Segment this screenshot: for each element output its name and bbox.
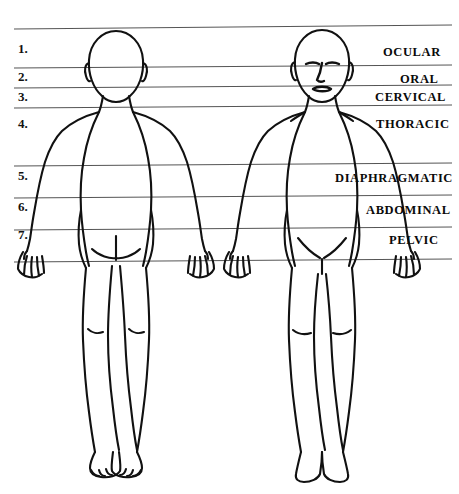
anatomy-diagram: 1. 2. 3. 4. 5. 6. 7. OCULAR ORAL CERVICA… [0,0,459,494]
posterior-leg-right-outer [137,268,149,452]
posterior-buttock-right [116,249,140,258]
posterior-torso-left [81,112,99,266]
anterior-inguinal-right [324,238,346,258]
posterior-leg-left-inner [108,266,119,450]
posterior-torso-right [133,112,151,266]
anterior-knee-right [333,330,351,334]
number-label-4: 4. [18,117,28,130]
number-label-6: 6. [18,200,28,213]
posterior-knee-right [129,329,144,333]
posterior-leg-left-outer [83,268,95,452]
anterior-foot-right [322,452,348,482]
posterior-neck-left [99,96,103,112]
anterior-leg-left-outer [289,268,301,452]
right-eye [326,63,339,65]
line-ocular [14,65,452,68]
number-label-2: 2. [18,70,28,83]
region-label-diaphragmatic: DIAPHRAGMATIC [335,172,453,185]
posterior-hand-left [18,251,44,277]
posterior-head-outline [89,31,143,102]
mouth [313,87,331,92]
number-label-3: 3. [18,90,28,103]
number-label-7: 7. [18,228,28,241]
line-oral [14,85,452,88]
anterior-shoulder-arm-left [233,112,305,251]
anterior-leg-right-outer [343,268,355,452]
line-thoracic [14,163,452,166]
anterior-face-features [306,63,339,92]
posterior-buttock-left [92,249,116,258]
figure-illustration [0,0,459,494]
region-label-thoracic: THORACIC [376,118,450,131]
region-label-ocular: OCULAR [383,46,441,59]
region-label-oral: ORAL [400,73,439,86]
posterior-hand-right [188,251,214,277]
anterior-leg-left-inner [314,274,325,450]
line-cervical [14,105,452,108]
number-label-1: 1. [18,42,28,55]
posterior-toes-right [120,469,141,476]
left-eye [306,63,319,65]
posterior-leg-right-inner [120,266,137,450]
posterior-neck-right [129,96,133,112]
region-label-cervical: CERVICAL [375,91,446,104]
posterior-figure [18,31,214,477]
anterior-leg-right-inner [326,274,343,450]
anterior-neck-right [335,96,339,112]
anterior-knee-left [293,330,311,334]
anterior-hand-right [394,251,420,277]
line-top [14,25,452,29]
posterior-knee-left [88,329,103,333]
anterior-foot-left [296,452,322,482]
anterior-inguinal-left [298,238,320,258]
posterior-toes-left [91,469,112,476]
region-label-abdominal: ABDOMINAL [366,204,451,217]
region-label-pelvic: PELVIC [389,234,439,247]
number-label-5: 5. [18,169,28,182]
anterior-hand-left [224,251,250,277]
anterior-neck-left [305,96,309,112]
